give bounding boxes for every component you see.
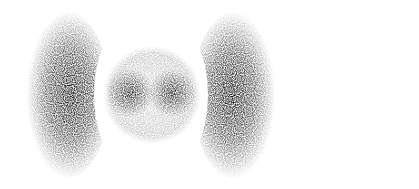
right-crescent-lobe	[192, 11, 280, 179]
left-crescent-lobe	[22, 11, 110, 179]
stipple-plot	[0, 0, 419, 189]
inner-right-lobe	[148, 69, 196, 117]
orbital-density-figure	[0, 0, 419, 189]
inner-left-lobe	[106, 69, 154, 117]
